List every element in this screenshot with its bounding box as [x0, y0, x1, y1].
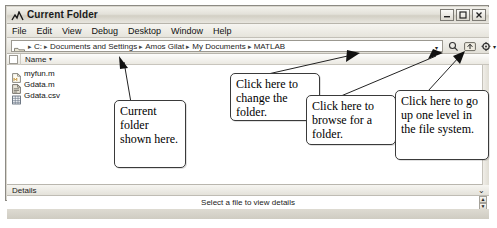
breadcrumb-my-documents[interactable]: My Documents [192, 42, 245, 51]
go-up-level-callout: Click here to go up one level in the fil… [395, 90, 489, 160]
window-title: Current Folder [27, 9, 98, 21]
minimize-button[interactable] [440, 9, 454, 21]
search-browse-button[interactable] [447, 40, 460, 52]
m-file-icon [12, 69, 21, 79]
file-list-column-header: Name ▾ [7, 54, 489, 65]
menu-item-window[interactable]: Window [171, 26, 203, 36]
details-panel-header[interactable]: Details ⌄ [7, 185, 489, 196]
table-row[interactable]: Gdata.m [7, 79, 55, 90]
menu-item-file[interactable]: File [12, 26, 27, 36]
status-bar [7, 209, 489, 219]
breadcrumb-documents-and-settings[interactable]: Documents and Settings [50, 42, 137, 51]
screenshot-root: Current Folder File Edit View Debug Desk… [0, 0, 497, 228]
menu-bar: File Edit View Debug Desktop Window Help [7, 24, 489, 38]
menu-item-view[interactable]: View [62, 26, 81, 36]
address-bar-row: ▸ C: ▸ Documents and Settings ▸ Amos Gil… [7, 38, 489, 54]
column-header-name[interactable]: Name ▾ [21, 54, 489, 65]
crumb-separator-2: ▸ [139, 42, 143, 51]
crumb-separator-3: ▸ [186, 42, 190, 51]
crumb-separator-4: ▸ [248, 42, 252, 51]
csv-file-icon [12, 91, 21, 101]
menu-item-desktop[interactable]: Desktop [128, 26, 161, 36]
window-title-bar[interactable]: Current Folder [7, 7, 489, 24]
scroll-up-button[interactable]: ▲ [479, 196, 487, 203]
file-name: myfun.m [24, 69, 55, 78]
column-header-name-label: Name [25, 55, 46, 64]
breadcrumb-matlab[interactable]: MATLAB [254, 42, 285, 51]
file-name: Gdata.csv [24, 91, 60, 100]
breadcrumb-amos-gilat[interactable]: Amos Gilat [145, 42, 184, 51]
address-bar[interactable]: ▸ C: ▸ Documents and Settings ▸ Amos Gil… [11, 40, 443, 52]
select-all-cell[interactable] [7, 54, 21, 65]
details-scroll-buttons[interactable]: ▲ ▼ [479, 196, 487, 209]
chevron-down-icon[interactable]: ⌄ [478, 186, 485, 195]
go-up-one-level-button[interactable] [463, 40, 476, 52]
sort-descending-icon: ▾ [49, 55, 52, 64]
m-file-icon [12, 80, 21, 90]
matlab-membrane-icon [11, 9, 24, 21]
details-panel-body: Select a file to view details [7, 196, 489, 209]
chevron-down-icon[interactable]: ▾ [432, 42, 441, 52]
close-button[interactable] [472, 9, 486, 21]
current-folder-callout: Current folder shown here. [114, 100, 186, 168]
breadcrumb-drive[interactable]: C: [34, 42, 42, 51]
table-row[interactable]: myfun.m [7, 68, 55, 79]
menu-item-edit[interactable]: Edit [37, 26, 53, 36]
browse-folder-callout: Click here to browse for a folder. [306, 95, 396, 145]
file-name: Gdata.m [24, 80, 55, 89]
crumb-separator-0: ▸ [28, 42, 32, 51]
maximize-button[interactable] [456, 9, 470, 21]
folder-icon [14, 42, 25, 51]
table-row[interactable]: Gdata.csv [7, 90, 60, 101]
actions-button[interactable]: ▾ [479, 40, 497, 52]
menu-item-debug[interactable]: Debug [91, 26, 118, 36]
crumb-separator-1: ▸ [44, 42, 48, 51]
gear-icon [481, 41, 492, 52]
checkbox-icon [9, 55, 18, 64]
chevron-down-icon[interactable]: ▾ [493, 43, 496, 50]
menu-item-help[interactable]: Help [213, 26, 232, 36]
details-placeholder-text: Select a file to view details [201, 198, 295, 207]
window-controls [440, 9, 486, 21]
details-panel-label: Details [7, 186, 36, 195]
